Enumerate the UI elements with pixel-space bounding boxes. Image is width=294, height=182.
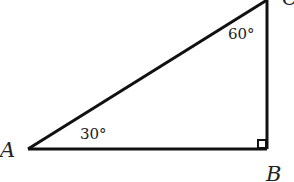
angle-label-c: 60° xyxy=(228,25,255,43)
right-angle-marker xyxy=(258,140,266,148)
vertex-label-c: C xyxy=(282,0,294,10)
vertex-label-b: B xyxy=(265,162,281,182)
side-ac xyxy=(28,0,267,149)
vertex-label-a: A xyxy=(0,138,15,162)
angle-label-a: 30° xyxy=(80,125,107,143)
triangle-diagram: A B C 30° 60° xyxy=(0,0,294,182)
